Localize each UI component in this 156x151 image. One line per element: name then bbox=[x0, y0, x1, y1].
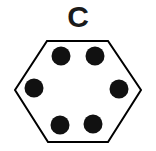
dot-top-right bbox=[86, 47, 105, 66]
dot-middle-left bbox=[25, 79, 44, 98]
dot-top-left bbox=[52, 47, 71, 66]
figure-container: C bbox=[0, 0, 156, 151]
dot-middle-right bbox=[110, 80, 129, 99]
dot-bottom-left bbox=[51, 116, 70, 135]
dot-bottom-right bbox=[84, 115, 103, 134]
hexagon-diagram bbox=[0, 0, 156, 151]
